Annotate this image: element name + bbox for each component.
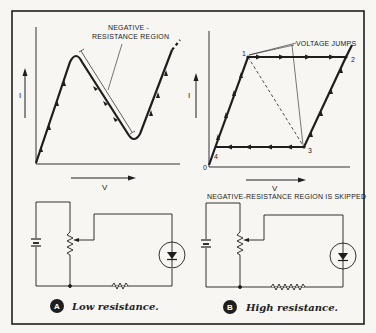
resistor-icon: [112, 283, 128, 289]
y-axis-label-b: I: [188, 91, 190, 100]
resistor-icon: [271, 284, 305, 290]
point-label-2: 2: [351, 56, 355, 63]
diode-icon: [159, 242, 185, 268]
annotation-line-2: RESISTANCE REGION: [92, 33, 169, 40]
caption-b: High resistance.: [245, 302, 338, 313]
circuit-b-title: NEGATIVE-RESISTANCE REGION IS SKIPPED: [207, 193, 366, 200]
battery-icon: [201, 240, 211, 247]
badge-b-label: B: [227, 303, 233, 312]
battery-icon: [31, 239, 41, 246]
iv-loop-b: [209, 57, 346, 165]
figure-canvas: I V NEGATIVE -: [0, 0, 376, 333]
potentiometer-icon: [237, 232, 243, 255]
annotation-line-1: NEGATIVE -: [108, 24, 150, 31]
skipped-region-dashed: [248, 57, 304, 147]
point-label-3: 3: [308, 147, 312, 154]
x-axis-label-a: V: [102, 183, 108, 192]
iv-curve-a: [36, 50, 172, 163]
y-arrow-icon: [23, 68, 28, 118]
voltage-jumps-label: VOLTAGE JUMPS: [296, 40, 356, 47]
diode-icon: [330, 243, 356, 269]
caption-a: Low resistance.: [71, 301, 159, 312]
point-label-1: 1: [242, 50, 246, 57]
y-arrow-icon: [194, 73, 199, 118]
circuit-b: [201, 203, 356, 290]
x-arrow-icon: [246, 178, 306, 183]
x-axis-label-b: V: [272, 184, 278, 193]
circuit-a: [31, 202, 185, 289]
point-label-0: 0: [203, 164, 207, 171]
y-axis-label-a: I: [19, 91, 21, 100]
x-arrow-icon: [71, 176, 136, 181]
badge-a-label: A: [54, 302, 60, 311]
negative-resistance-bracket: [79, 44, 135, 134]
graph-b: I V: [188, 31, 356, 193]
point-label-4: 4: [214, 153, 218, 160]
graph-a: I V NEGATIVE -: [19, 24, 180, 192]
potentiometer-icon: [67, 232, 73, 255]
